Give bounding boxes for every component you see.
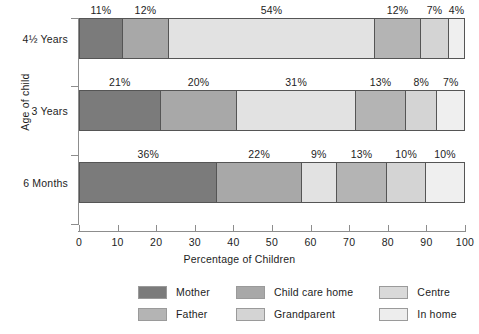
bar-segment: 13%: [356, 91, 406, 130]
stacked-bar: 11%12%54%12%7%4%: [79, 18, 465, 59]
legend-swatch: [138, 286, 167, 299]
bar-group: 4½ Years11%12%54%12%7%4%: [79, 18, 465, 59]
legend-label: In home: [417, 308, 456, 320]
category-label: 3 Years: [32, 105, 68, 117]
bar-segment: 10%: [387, 163, 426, 202]
x-axis-tick: [79, 225, 80, 232]
y-axis-tick: [71, 224, 79, 225]
bar-segment-label: 7%: [427, 4, 443, 16]
bar-segment-label: 10%: [395, 148, 417, 160]
x-axis-tick: [233, 225, 234, 232]
bar-segment: 13%: [337, 163, 387, 202]
bar-segment-label: 12%: [387, 4, 409, 16]
x-axis-tick: [311, 225, 312, 232]
bar-group: 3 Years21%20%31%13%8%7%: [79, 90, 465, 131]
x-axis-tick: [156, 225, 157, 232]
x-axis-tick-label: 60: [304, 236, 316, 248]
bar-segment-label: 4%: [449, 4, 465, 16]
legend-item: Grandparent: [236, 308, 353, 321]
x-axis-tick-label: 100: [456, 236, 474, 248]
legend-swatch: [379, 286, 408, 299]
bar-segment-label: 36%: [137, 148, 159, 160]
legend-item: Mother: [138, 286, 210, 299]
bar-segment-label: 13%: [370, 76, 392, 88]
bar-segment-label: 22%: [248, 148, 270, 160]
bar-segment: 20%: [161, 91, 238, 130]
legend-item: Centre: [379, 286, 456, 299]
bar-segment: 36%: [80, 163, 217, 202]
category-label: 4½ Years: [23, 33, 68, 45]
legend-swatch: [236, 308, 265, 321]
x-axis-tick: [426, 225, 427, 232]
legend-label: Child care home: [274, 286, 353, 298]
bar-group: 6 Months36%22%9%13%10%10%: [79, 162, 465, 203]
x-axis-tick: [195, 225, 196, 232]
bar-segment: 7%: [421, 19, 449, 58]
bar-segment: 31%: [237, 91, 355, 130]
y-axis-tick: [71, 18, 79, 19]
legend-label: Centre: [417, 286, 450, 298]
bar-segment: 21%: [80, 91, 161, 130]
x-axis-tick-label: 40: [227, 236, 239, 248]
stacked-bar: 36%22%9%13%10%10%: [79, 162, 465, 203]
bar-segment-label: 9%: [311, 148, 327, 160]
bar-segment: 12%: [123, 19, 169, 58]
x-axis-tick: [388, 225, 389, 232]
y-axis-tick: [71, 86, 79, 87]
bar-segment: 7%: [437, 91, 464, 130]
legend-label: Grandparent: [274, 308, 335, 320]
x-axis-title: Percentage of Children: [0, 253, 479, 265]
chart-legend: MotherChild care homeCentreFatherGrandpa…: [138, 281, 457, 325]
x-axis-tick: [118, 225, 119, 232]
stacked-bar: 21%20%31%13%8%7%: [79, 90, 465, 131]
bar-segment-label: 20%: [188, 76, 210, 88]
bar-segment-label: 7%: [443, 76, 459, 88]
x-axis-tick-label: 10: [111, 236, 123, 248]
x-axis-tick-label: 50: [266, 236, 278, 248]
x-axis-tick-label: 90: [420, 236, 432, 248]
bar-segment-label: 13%: [351, 148, 373, 160]
legend-label: Father: [176, 308, 208, 320]
bar-segment: 4%: [449, 19, 464, 58]
legend-item: Child care home: [236, 286, 353, 299]
legend-item: Father: [138, 308, 210, 321]
x-axis-tick-label: 30: [189, 236, 201, 248]
x-axis-tick-label: 70: [343, 236, 355, 248]
bar-segment-label: 11%: [90, 4, 111, 16]
x-axis-tick: [349, 225, 350, 232]
legend-label: Mother: [176, 286, 210, 298]
bar-segment: 10%: [426, 163, 464, 202]
bar-segment-label: 31%: [285, 76, 307, 88]
bar-segment: 11%: [80, 19, 123, 58]
bar-segment: 9%: [302, 163, 337, 202]
x-axis-tick-label: 0: [76, 236, 82, 248]
category-label: 6 Months: [23, 177, 68, 189]
x-axis-tick: [272, 225, 273, 232]
x-axis-tick-label: 20: [150, 236, 162, 248]
bar-segment-label: 10%: [434, 148, 456, 160]
bar-segment-label: 21%: [109, 76, 131, 88]
bar-segment-label: 12%: [135, 4, 157, 16]
x-axis-tick: [465, 225, 466, 232]
x-axis-tick-label: 80: [382, 236, 394, 248]
stacked-bar-chart: Age of child 4½ Years11%12%54%12%7%4%3 Y…: [0, 0, 479, 334]
legend-swatch: [236, 286, 265, 299]
bar-segment: 54%: [169, 19, 375, 58]
bar-segment: 22%: [217, 163, 301, 202]
bar-segment-label: 54%: [261, 4, 283, 16]
y-axis-title: Age of child: [19, 57, 31, 147]
legend-swatch: [379, 308, 408, 321]
legend-item: In home: [379, 308, 456, 321]
bar-segment-label: 8%: [414, 76, 430, 88]
bar-segment: 8%: [406, 91, 437, 130]
legend-swatch: [138, 308, 167, 321]
bar-segment: 12%: [375, 19, 421, 58]
y-axis-tick: [71, 155, 79, 156]
